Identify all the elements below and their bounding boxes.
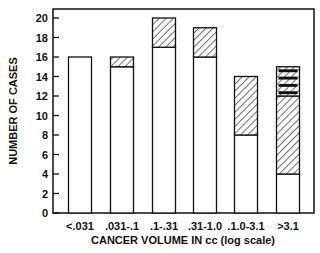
y-axis-title: NUMBER OF CASES: [7, 57, 19, 165]
bar-1: [111, 57, 134, 213]
x-tick-label: .031-.1: [105, 220, 139, 232]
bar-2: [153, 18, 176, 213]
black-stripe: [279, 91, 298, 94]
y-tick-label: 0: [42, 207, 48, 219]
bar-segment: [69, 57, 92, 213]
y-tick-label: 6: [42, 149, 48, 161]
plot-frame: [53, 9, 314, 213]
y-tick-label: 16: [36, 51, 48, 63]
stacked-bar-chart: 02468101214161820 <.031.031-.1.1-.31.31-…: [0, 0, 320, 253]
y-tick-label: 10: [36, 110, 48, 122]
y-tick-label: 18: [36, 32, 48, 44]
bar-5: [277, 67, 300, 213]
bar-3: [194, 28, 217, 213]
bar-4: [235, 77, 258, 214]
black-stripe: [279, 77, 298, 80]
bar-segment: [111, 67, 134, 213]
y-tick-label: 8: [42, 129, 48, 141]
x-axis-title: CANCER VOLUME IN cc (log scale): [91, 234, 275, 246]
bars: [69, 18, 300, 213]
x-tick-label: .1-.31: [150, 220, 178, 232]
y-tick-label: 14: [36, 71, 49, 83]
bar-segment: [277, 174, 300, 213]
bar-segment: [235, 135, 258, 213]
y-tick-label: 2: [42, 188, 48, 200]
bar-0: [69, 57, 92, 213]
x-tick-label: .31-1.0: [188, 220, 222, 232]
x-axis: <.031.031-.1.1-.31.31-1.0.1.0-3.1>3.1: [66, 220, 299, 232]
bar-segment: [277, 96, 300, 174]
x-tick-label: >3.1: [277, 220, 299, 232]
y-tick-label: 12: [36, 90, 48, 102]
y-tick-label: 20: [36, 12, 48, 24]
y-tick-label: 4: [42, 168, 49, 180]
x-tick-label: <.031: [66, 220, 94, 232]
bar-segment: [111, 57, 134, 67]
bar-segment: [194, 28, 217, 57]
bar-segment: [153, 47, 176, 213]
x-tick-label: .1.0-3.1: [227, 220, 264, 232]
bar-segment: [194, 57, 217, 213]
bar-segment: [153, 18, 176, 47]
bar-segment: [235, 77, 258, 136]
y-axis: 02468101214161820: [36, 12, 59, 219]
black-stripe: [279, 84, 298, 87]
black-stripe: [279, 69, 298, 72]
